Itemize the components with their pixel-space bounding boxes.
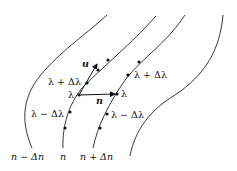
streamline-diagram: u n λ + Δλ λ λ − Δλ λ + Δλ λ λ − Δλ n − … [0,0,237,171]
label-right-plus: λ + Δλ [134,69,167,80]
point-lambda [115,92,118,95]
label-u: u [82,58,89,69]
point [96,68,99,71]
curve-label-n-minus-dn: n − Δn [11,151,44,162]
point [106,58,109,61]
point [98,126,101,129]
curve-n-plus-2dn [130,15,223,156]
point [63,126,66,129]
label-n-vector: n [96,95,103,106]
label-right-center: λ [121,88,127,99]
label-left-center: λ [68,89,74,100]
label-left-plus: λ + Δλ [48,76,81,87]
label-right-minus: λ − Δλ [111,109,144,120]
point [126,73,129,76]
point [105,112,108,115]
point [137,60,140,63]
curve-label-n-plus-dn: n + Δn [80,151,113,162]
label-left-minus: λ − Δλ [31,108,64,119]
curve-label-n: n [60,151,66,162]
point [68,110,71,113]
curve-n-plus-dn [93,15,185,148]
